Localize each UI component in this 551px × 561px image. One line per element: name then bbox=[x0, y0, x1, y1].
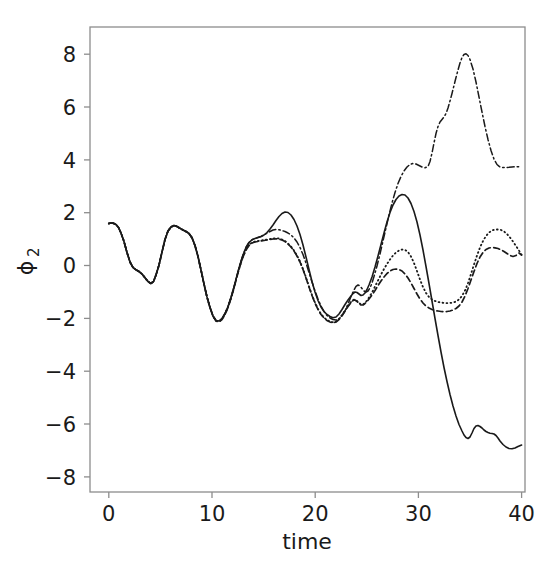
y-tick-label: 6 bbox=[63, 96, 76, 120]
figure-container: 0 10 20 30 40 8 6 4 2 0 −2 −4 −6 −8 time… bbox=[0, 0, 551, 561]
y-tick-label: −8 bbox=[45, 466, 76, 490]
y-axis-title-base: ϕ bbox=[13, 261, 38, 276]
y-tick-label: 0 bbox=[63, 254, 76, 278]
x-tick-label: 20 bbox=[302, 502, 329, 526]
x-tick-label: 30 bbox=[405, 502, 432, 526]
y-axis-title-subscript: 2 bbox=[25, 247, 43, 257]
figure-background bbox=[0, 0, 551, 561]
y-tick-label: 8 bbox=[63, 43, 76, 67]
y-tick-label: −6 bbox=[45, 413, 76, 437]
line-chart: 0 10 20 30 40 8 6 4 2 0 −2 −4 −6 −8 time… bbox=[0, 0, 551, 561]
y-tick-label: −4 bbox=[45, 360, 76, 384]
x-tick-label: 10 bbox=[199, 502, 226, 526]
y-tick-label: −2 bbox=[45, 307, 76, 331]
y-tick-label: 2 bbox=[63, 201, 76, 225]
x-tick-label: 40 bbox=[508, 502, 535, 526]
x-tick-label: 0 bbox=[102, 502, 115, 526]
y-tick-label: 4 bbox=[63, 149, 76, 173]
x-axis-title: time bbox=[282, 529, 332, 554]
